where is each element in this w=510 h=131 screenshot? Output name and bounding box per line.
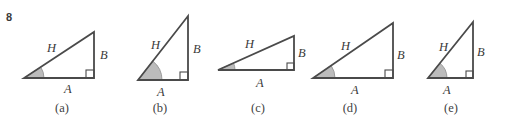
label-b-a: B (100, 48, 108, 63)
problem-number: 8 (6, 11, 12, 23)
label-h-e: H (439, 40, 448, 55)
caption-a: (a) (14, 101, 110, 116)
right-angle-marker-d (385, 70, 393, 78)
label-a-b: A (157, 85, 165, 100)
caption-d: (d) (300, 101, 400, 116)
right-angle-marker-b (180, 72, 188, 80)
triangle-figure-c: HBA(c) (210, 0, 306, 131)
caption-e: (e) (405, 101, 497, 116)
triangle-figure-b: HBA(b) (113, 0, 207, 131)
triangle-outline-c (218, 36, 294, 70)
label-h-d: H (341, 39, 350, 54)
label-b-e: B (477, 45, 485, 60)
label-b-d: B (397, 48, 405, 63)
triangle-outline-a (24, 32, 94, 78)
triangle-figure-e: HBA(e) (405, 0, 497, 131)
triangle-drawing-a (14, 0, 110, 100)
label-a-d: A (351, 83, 359, 98)
caption-b: (b) (113, 101, 207, 116)
label-b-b: B (193, 42, 201, 57)
figure-container: 8 HBA(a)HBA(b)HBA(c)HBA(d)HBA(e) (0, 0, 510, 131)
right-angle-marker-a (86, 70, 94, 78)
label-a-c: A (256, 76, 264, 91)
triangle-figure-d: HBA(d) (300, 0, 400, 131)
triangle-outline-e (428, 22, 473, 78)
triangle-figure-a: HBA(a) (14, 0, 110, 131)
right-angle-marker-e (466, 71, 473, 78)
triangle-outline-d (313, 23, 393, 78)
right-angle-marker-c (287, 63, 294, 70)
caption-c: (c) (210, 101, 306, 116)
label-a-e: A (443, 83, 451, 98)
label-h-a: H (47, 41, 56, 56)
triangle-outline-b (138, 16, 188, 80)
label-h-c: H (245, 37, 254, 52)
label-a-a: A (64, 82, 72, 97)
label-h-b: H (151, 38, 160, 53)
